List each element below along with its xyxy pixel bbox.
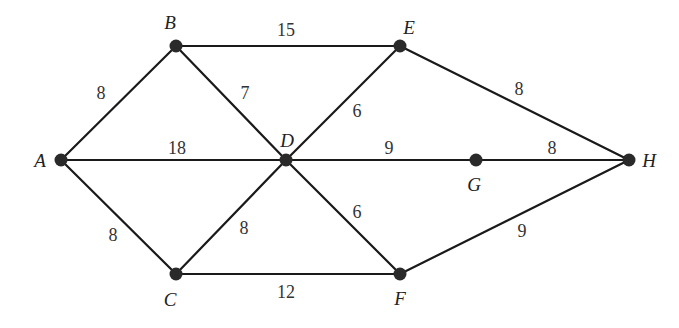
node-label-h: H — [641, 150, 657, 171]
edge-weight-cd: 8 — [240, 218, 249, 238]
node-f — [394, 268, 407, 281]
node-h — [623, 154, 636, 167]
edge-weight-bd: 7 — [241, 83, 250, 103]
edge-a-c — [61, 160, 176, 274]
node-e — [394, 40, 407, 53]
node-label-g: G — [467, 174, 481, 195]
node-label-c: C — [164, 289, 177, 310]
edge-f-h — [400, 160, 629, 274]
edge-c-d — [176, 160, 286, 274]
edge-a-b — [61, 46, 176, 160]
edge-d-f — [286, 160, 400, 274]
edge-weight-ad: 18 — [168, 138, 186, 158]
edge-weight-ac: 8 — [109, 225, 118, 245]
node-a — [55, 154, 68, 167]
edge-weight-de: 6 — [353, 101, 362, 121]
edge-e-h — [400, 46, 629, 160]
node-c — [170, 268, 183, 281]
edge-weight-be: 15 — [277, 20, 295, 40]
edge-weight-gh: 8 — [548, 138, 557, 158]
weighted-graph-diagram: 8157186988886129 ABCDEFGH — [0, 0, 679, 328]
edge-weight-fh: 9 — [518, 221, 527, 241]
edge-d-e — [286, 46, 400, 160]
edges-layer — [61, 46, 629, 274]
node-label-a: A — [32, 150, 46, 171]
node-b — [170, 40, 183, 53]
edge-b-d — [176, 46, 286, 160]
node-d — [280, 154, 293, 167]
node-g — [470, 154, 483, 167]
node-label-f: F — [393, 288, 406, 309]
edge-weight-df: 6 — [353, 202, 362, 222]
edge-weight-eh: 8 — [515, 79, 524, 99]
node-label-e: E — [402, 17, 415, 38]
node-label-b: B — [164, 12, 176, 33]
edge-weight-dg: 9 — [385, 138, 394, 158]
node-label-d: D — [279, 130, 294, 151]
edge-weight-cf: 12 — [277, 282, 295, 302]
edge-weight-ab: 8 — [97, 83, 106, 103]
